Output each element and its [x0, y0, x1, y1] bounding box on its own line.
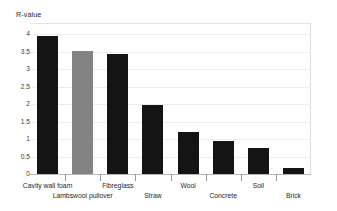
bar: [37, 36, 58, 174]
category-tick: [171, 174, 172, 181]
bar: [283, 168, 304, 174]
category-tick: [135, 174, 136, 181]
bar: [248, 148, 269, 174]
category-tick: [100, 174, 101, 181]
x-axis-tick-label: Straw: [144, 192, 161, 200]
x-axis-tick-label: Fibreglass: [102, 182, 133, 190]
x-axis-tick-label: Wool: [180, 182, 195, 190]
category-tick: [206, 174, 207, 181]
x-axis-tick-label: Cavity wall foam: [23, 182, 72, 190]
category-tick: [241, 174, 242, 181]
bar-chart: R-value 00.511.522.533.54 Cavity wall fo…: [0, 0, 337, 211]
y-axis-tick-label: 0.5: [21, 153, 30, 160]
y-axis-tick-label: 2.5: [21, 83, 30, 90]
category-tick: [65, 174, 66, 181]
x-axis-tick-label: Soil: [253, 182, 264, 190]
y-axis-tick-label: 3.5: [21, 48, 30, 55]
y-axis-title: R-value: [16, 10, 41, 19]
bar: [107, 54, 128, 174]
bars-layer: [30, 23, 311, 174]
bar: [178, 132, 199, 174]
y-axis-tick-label: 1.5: [21, 118, 30, 125]
bar: [213, 141, 234, 174]
x-axis-tick-label: Concrete: [209, 192, 237, 200]
x-axis-tick-label: Brick: [286, 192, 301, 200]
bar: [72, 51, 93, 174]
bar: [142, 105, 163, 174]
x-axis-tick-label: Lambswool pullover: [53, 192, 113, 200]
category-tick: [276, 174, 277, 181]
